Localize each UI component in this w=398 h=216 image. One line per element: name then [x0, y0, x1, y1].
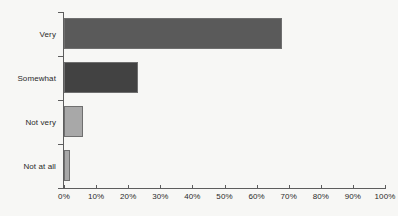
value-axis-tick [289, 185, 290, 189]
value-axis-tick [321, 185, 322, 189]
value-axis-label: 100% [365, 192, 398, 201]
category-label-not-very: Not very [0, 118, 56, 127]
value-axis-tick [353, 185, 354, 189]
value-axis-tick [96, 185, 97, 189]
bar-row [64, 56, 385, 100]
category-label-somewhat: Somewhat [0, 74, 56, 83]
bar-somewhat [64, 62, 138, 93]
category-axis-labels: Very Somewhat Not very Not at all [0, 12, 58, 188]
category-label-not-at-all: Not at all [0, 162, 56, 171]
bar-not-very [64, 106, 83, 137]
value-axis-labels: 0%10%20%30%40%50%60%70%80%90%100% [0, 192, 398, 210]
bar-series [64, 12, 385, 188]
bar-not-at-all [64, 150, 70, 181]
value-axis-tick [385, 185, 386, 189]
value-axis-tick [257, 185, 258, 189]
bar-row [64, 144, 385, 188]
value-axis-tick [64, 185, 65, 189]
bar-row [64, 100, 385, 144]
value-axis-tick [225, 185, 226, 189]
value-axis-tick [192, 185, 193, 189]
bar-very [64, 18, 282, 49]
bar-row [64, 12, 385, 56]
value-axis-tick [128, 185, 129, 189]
category-label-very: Very [0, 30, 56, 39]
bar-chart: Very Somewhat Not very Not at all 0%10%2… [0, 0, 398, 216]
value-axis-tick [160, 185, 161, 189]
